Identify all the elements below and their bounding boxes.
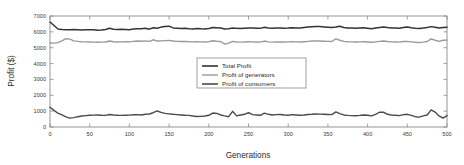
x-tick-label: 100 xyxy=(125,131,134,137)
profit-vs-generations-line-chart: 01000200030004000500060007000 0501001502… xyxy=(0,0,464,165)
y-tick-label: 2000 xyxy=(34,92,46,98)
x-tick-label: 0 xyxy=(48,131,51,137)
y-tick-label: 4000 xyxy=(34,61,46,67)
x-tick-label: 250 xyxy=(244,131,253,137)
x-tick-label: 150 xyxy=(164,131,173,137)
y-tick-label: 1000 xyxy=(34,108,46,114)
y-tick-label: 7000 xyxy=(34,13,46,19)
legend-label: Profit of generators xyxy=(222,71,275,78)
y-tick-label: 5000 xyxy=(34,45,46,51)
legend-label: Profit of consumers xyxy=(222,80,275,87)
chart-legend: Total ProfitProfit of generatorsProfit o… xyxy=(197,58,306,88)
x-tick-label: 450 xyxy=(403,131,412,137)
legend-label: Total Profit xyxy=(222,62,252,69)
y-tick-label: 3000 xyxy=(34,76,46,82)
x-tick-label: 350 xyxy=(323,131,332,137)
x-tick-label: 300 xyxy=(284,131,293,137)
x-tick-label: 500 xyxy=(442,131,451,137)
x-tick-label: 400 xyxy=(363,131,372,137)
chart-figure: 01000200030004000500060007000 0501001502… xyxy=(0,0,464,165)
x-tick-label: 50 xyxy=(87,131,93,137)
y-tick-label: 6000 xyxy=(34,29,46,35)
y-tick-label: 0 xyxy=(43,124,46,130)
x-tick-label: 200 xyxy=(204,131,213,137)
x-axis-title: Generations xyxy=(226,151,271,160)
y-axis-title: Profit ($) xyxy=(7,55,16,87)
